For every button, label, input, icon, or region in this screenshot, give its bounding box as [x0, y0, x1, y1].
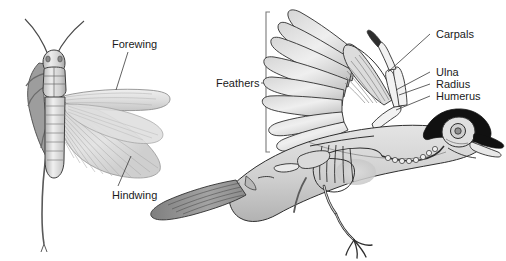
ulna-label: Ulna [436, 66, 460, 78]
bird-illustration: Feathers [151, 10, 504, 258]
figure-canvas: Forewing Hindwing Feathers [0, 0, 506, 261]
anatomy-comparison-figure: Forewing Hindwing Feathers [0, 0, 506, 261]
bird-wing-primaries [262, 10, 360, 151]
forewing-leader-line [116, 52, 128, 90]
grasshopper-illustration: Forewing Hindwing [25, 19, 170, 252]
forewing-label: Forewing [112, 38, 157, 50]
grasshopper-thorax [43, 67, 66, 98]
carpals-label: Carpals [436, 28, 474, 40]
carpals-leader-line [388, 34, 430, 72]
grasshopper-abdomen [45, 97, 65, 178]
humerus-label: Humerus [436, 90, 481, 102]
feathers-label: Feathers [216, 77, 260, 89]
radius-label: Radius [436, 78, 471, 90]
hindwing-label: Hindwing [112, 189, 157, 201]
